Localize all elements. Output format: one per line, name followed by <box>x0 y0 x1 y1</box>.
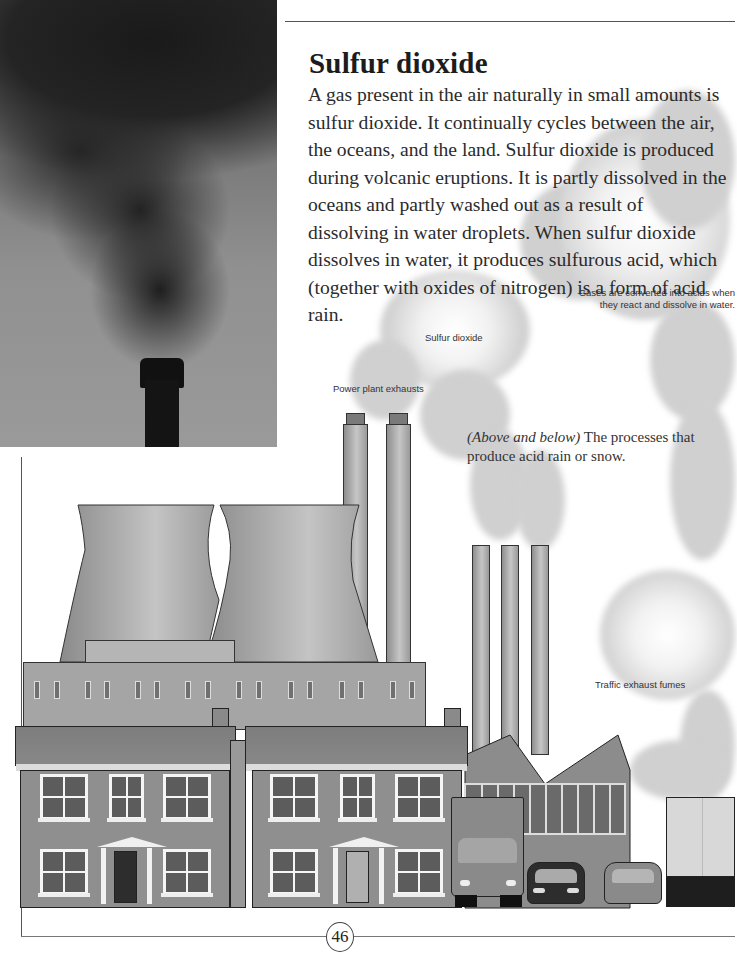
front-door-light <box>346 851 369 903</box>
top-rule <box>285 21 735 22</box>
label-sulfur-dioxide: Sulfur dioxide <box>425 332 483 343</box>
truck-front <box>451 797 524 897</box>
label-traffic-exhaust: Traffic exhaust fumes <box>595 679 685 690</box>
plant-annex <box>85 640 235 664</box>
bottom-rule <box>21 936 735 937</box>
smokestack-photo <box>0 0 277 447</box>
house-gap <box>230 740 246 908</box>
page-title: Sulfur dioxide <box>309 47 488 80</box>
chimney <box>145 380 179 447</box>
label-power-plant-exhausts: Power plant exhausts <box>333 383 424 394</box>
front-door-dark <box>114 851 137 903</box>
page-number: 46 <box>326 922 354 952</box>
car-grey <box>604 862 662 904</box>
delivery-truck <box>666 797 735 877</box>
figure-caption: (Above and below) The processes that pro… <box>467 428 737 466</box>
caption-italic: (Above and below) <box>467 429 580 445</box>
car-dark <box>527 862 585 904</box>
label-gases-converted: Gases are converted into acids when they… <box>575 287 735 310</box>
